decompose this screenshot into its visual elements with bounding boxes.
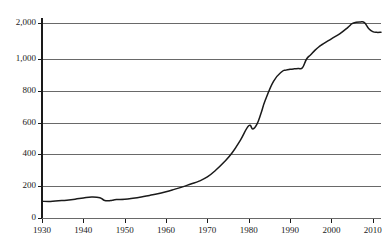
- y-tick-label-2000: 2,000: [16, 18, 36, 27]
- x-tick-label-1930: 1930: [22, 226, 62, 235]
- x-tick-label-1950: 1950: [105, 226, 145, 235]
- x-tick-label-2000: 2000: [311, 226, 351, 235]
- line-chart: [0, 0, 387, 251]
- y-tick-label-600: 600: [23, 118, 37, 127]
- y-tick-label-200: 200: [23, 181, 37, 190]
- y-tick-label-1000: 1,000: [16, 54, 36, 63]
- y-tick-marks-group: [38, 24, 42, 219]
- x-tick-label-1980: 1980: [229, 226, 269, 235]
- x-tick-marks-group: [43, 219, 374, 223]
- y-tick-label-400: 400: [23, 149, 37, 158]
- y-tick-label-0: 0: [32, 213, 37, 222]
- data-series-line: [42, 22, 381, 202]
- x-tick-label-1960: 1960: [146, 226, 186, 235]
- gridlines-group: [42, 24, 381, 219]
- x-tick-label-2010: 2010: [353, 226, 387, 235]
- x-tick-label-1970: 1970: [187, 226, 227, 235]
- y-tick-label-800: 800: [23, 86, 37, 95]
- chart-container: 02004006008001,0002,000 1930194019501960…: [0, 0, 387, 251]
- x-tick-label-1990: 1990: [270, 226, 310, 235]
- x-tick-label-1940: 1940: [63, 226, 103, 235]
